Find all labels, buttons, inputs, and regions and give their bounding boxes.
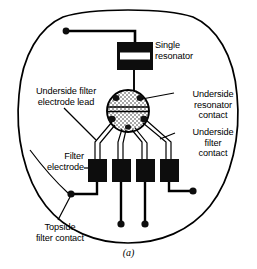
topside-resonator-lead [63, 28, 135, 42]
figure-container: Single resonator Underside filter electr… [0, 0, 257, 269]
topside-filter-contact-leads [67, 182, 196, 228]
terminal-dot-right [189, 187, 196, 194]
figure-caption: (a) [0, 247, 257, 258]
label-single-resonator: Single resonator [155, 40, 227, 61]
leader-underside-resonator-contact [142, 93, 174, 99]
label-filter-electrode: Filter electrode [18, 151, 84, 172]
terminal-dot-center-right [141, 220, 148, 227]
terminal-dot-center-left [117, 220, 124, 227]
filter-electrode-4 [160, 159, 179, 182]
label-underside-resonator-contact: Underside resonator contact [176, 89, 250, 121]
underside-contact-assembly [107, 90, 149, 132]
filter-electrode-2 [112, 159, 131, 182]
single-resonator-block [117, 42, 153, 70]
leader-topside-filter-contact [58, 197, 70, 220]
filter-electrodes [88, 159, 179, 182]
filter-electrode-3 [136, 159, 155, 182]
filter-electrode-1 [88, 159, 107, 182]
label-underside-filter-electrode-lead: Underside filter electrode lead [24, 86, 108, 107]
terminal-dot-top-left [63, 28, 70, 35]
terminal-dot-left [67, 190, 74, 197]
resonator-slot [120, 53, 150, 60]
leader-underside-filter-electrode-lead [64, 108, 96, 140]
label-topside-filter-contact: Topside filter contact [14, 222, 106, 243]
label-underside-filter-contact: Underside filter contact [177, 127, 249, 159]
